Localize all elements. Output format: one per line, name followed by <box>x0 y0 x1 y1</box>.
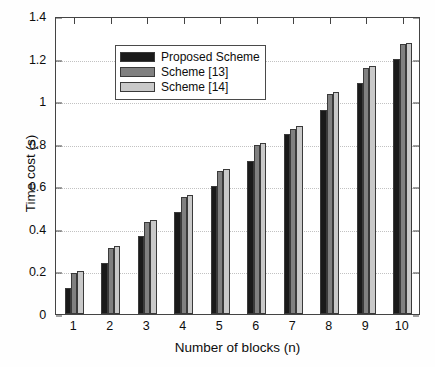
y-tick-label: 0.8 <box>29 138 46 152</box>
y-tick-label: 1.2 <box>29 53 46 67</box>
y-tick-mark <box>413 316 419 317</box>
bar <box>77 271 83 314</box>
x-tick-label: 9 <box>362 319 369 333</box>
bar <box>114 246 120 314</box>
y-tick-label: 1 <box>39 95 46 109</box>
legend-label-scheme-13: Scheme [13] <box>161 66 228 78</box>
bar-group <box>65 18 84 314</box>
legend-swatch-scheme-13 <box>120 67 155 77</box>
bar <box>296 126 302 314</box>
bar <box>406 43 412 314</box>
x-tick-label: 10 <box>395 319 409 333</box>
bar-group <box>357 18 376 314</box>
legend-entry: Proposed Scheme <box>120 50 260 64</box>
legend-swatch-scheme-14 <box>120 82 155 92</box>
x-tick-label: 3 <box>143 319 150 333</box>
x-tick-label: 5 <box>216 319 223 333</box>
legend-entry: Scheme [14] <box>120 80 260 94</box>
y-tick-label: 0.6 <box>29 180 46 194</box>
bar-group <box>320 18 339 314</box>
bar <box>223 169 229 314</box>
figure-canvas: Time cost (s) 00.20.40.60.811.21.4 Propo… <box>0 0 435 367</box>
x-tick-label: 7 <box>289 319 296 333</box>
x-tick-label: 4 <box>179 319 186 333</box>
plot-area: Proposed Scheme Scheme [13] Scheme [14] <box>55 17 420 315</box>
legend: Proposed Scheme Scheme [13] Scheme [14] <box>115 45 266 100</box>
bar <box>333 92 339 314</box>
y-tick-mark <box>56 316 62 317</box>
y-tick-label: 1.4 <box>29 10 46 24</box>
x-tick-label: 6 <box>252 319 259 333</box>
y-tick-label: 0 <box>39 308 46 322</box>
legend-entry: Scheme [13] <box>120 65 260 79</box>
x-axis-title: Number of blocks (n) <box>55 340 420 355</box>
y-axis: 00.20.40.60.811.21.4 <box>0 0 55 315</box>
y-tick-label: 0.2 <box>29 265 46 279</box>
legend-label-proposed-scheme: Proposed Scheme <box>161 51 260 63</box>
bar <box>150 220 156 314</box>
bar <box>187 195 193 314</box>
legend-swatch-proposed-scheme <box>120 52 155 62</box>
x-tick-label: 1 <box>70 319 77 333</box>
y-tick-label: 0.4 <box>29 223 46 237</box>
bar <box>369 66 375 314</box>
bar <box>260 143 266 314</box>
bar-group <box>393 18 412 314</box>
x-tick-label: 8 <box>325 319 332 333</box>
legend-label-scheme-14: Scheme [14] <box>161 81 228 93</box>
bar-group <box>284 18 303 314</box>
x-tick-label: 2 <box>106 319 113 333</box>
